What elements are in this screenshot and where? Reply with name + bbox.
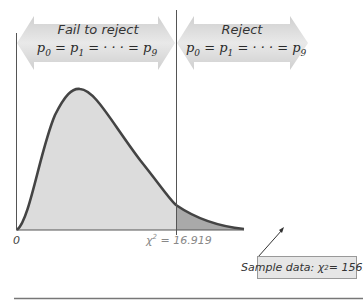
pointer-line (258, 230, 282, 257)
critical-value-label: χ2 = 16.919 (146, 233, 212, 247)
fail-to-reject-title: Fail to reject (40, 22, 156, 37)
sample-data-box: Sample data: χ2 = 156.5 (257, 256, 357, 279)
reject-equation: p0 = p1 = · · · = p9 (186, 40, 298, 58)
fail-to-reject-equation: p0 = p1 = · · · = p9 (36, 40, 158, 58)
reject-region (176, 205, 244, 230)
reject-title: Reject (196, 22, 288, 37)
origin-label: 0 (13, 234, 20, 247)
